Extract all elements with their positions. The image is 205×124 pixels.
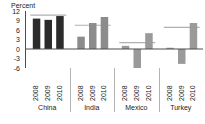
y-axis-tick: 9 [8,17,20,24]
bar-chart: Percent 129630-3-6 200820092010China2008… [0,0,205,124]
x-axis-year-label: 2008 [121,69,129,101]
y-axis-tick: -6 [8,65,20,72]
x-axis-year-label: 2009 [178,69,186,101]
x-axis-group-label: Turkey [159,104,204,112]
x-axis-year-label: 2008 [166,69,174,101]
x-axis-year-label: 2010 [145,69,153,101]
chart-canvas [25,11,203,68]
x-axis-group: 200820092010China [25,68,70,122]
x-axis-year-label: 2010 [189,69,197,101]
group-separator [114,68,115,112]
bar [45,20,53,49]
x-axis-year-label: 2009 [133,69,141,101]
bar [178,49,186,64]
x-axis-group-label: India [70,104,115,112]
x-axis-group: 200820092010Turkey [159,68,204,122]
y-axis-tick: 3 [8,36,20,43]
y-axis-tick: 6 [8,27,20,34]
x-axis-year-label: 2009 [44,69,52,101]
x-axis-group: 200820092010Mexico [114,68,159,122]
bar [77,37,85,49]
bar [89,23,97,49]
x-axis-area: 200820092010China200820092010India200820… [25,68,203,122]
x-axis-year-label: 2009 [89,69,97,101]
x-axis-year-label: 2010 [100,69,108,101]
bar [190,23,198,49]
y-axis-tick: -3 [8,55,20,62]
bar [56,16,64,49]
group-separator [159,68,160,112]
y-axis-tick: 12 [8,8,20,15]
bar [101,17,109,49]
x-axis-year-label: 2008 [32,69,40,101]
x-axis-group-label: Mexico [114,104,159,112]
x-axis-group: 200820092010India [70,68,115,122]
group-separator [70,68,71,112]
plot-area [25,11,203,68]
bar [134,49,142,68]
bar [33,19,41,49]
bar [145,33,153,49]
x-axis-year-label: 2008 [77,69,85,101]
y-axis-tick: 0 [8,46,20,53]
x-axis-group-label: China [25,104,70,112]
x-axis-year-label: 2010 [56,69,64,101]
